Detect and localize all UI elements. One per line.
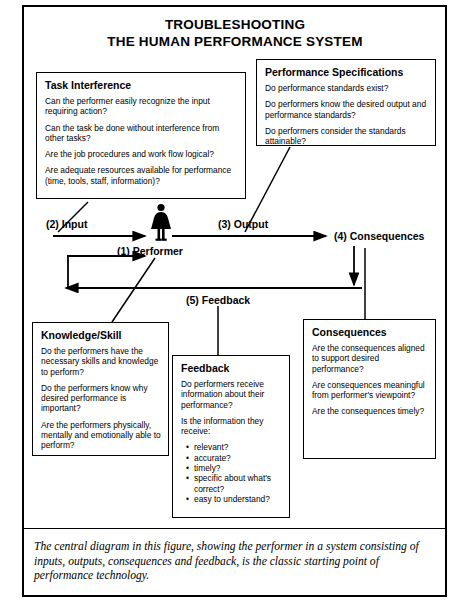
consequences-box: Consequences Are the consequences aligne… [303, 319, 436, 459]
flow-label-input: (2) Input [46, 218, 87, 230]
feedback-question: Do performers receive information about … [181, 379, 282, 410]
flow-label-performer: (1) Performer [117, 245, 183, 257]
performance-specifications-box: Performance Specifications Do performanc… [256, 59, 436, 146]
performance-specifications-question: Do performers consider the standards att… [265, 126, 428, 147]
feedback-bullet: easy to understand? [194, 494, 282, 504]
flow-label-consequences: (4) Consequences [334, 230, 424, 242]
feedback-heading: Feedback [181, 362, 282, 374]
consequences-heading: Consequences [312, 326, 428, 338]
knowledge-skill-question: Are the performers physically, mentally … [41, 420, 161, 451]
feedback-box: Feedback Do performers receive informati… [172, 355, 290, 518]
knowledge-skill-question: Do the performers know why desired perfo… [41, 383, 161, 414]
feedback-question: Is the information they receive: [181, 416, 282, 437]
caption-divider [24, 528, 445, 529]
knowledge-skill-question: Do the performers have the necessary ski… [41, 346, 161, 377]
task-interference-question: Can the performer easily recognize the i… [45, 96, 238, 117]
figure-page: TROUBLESHOOTING THE HUMAN PERFORMANCE SY… [0, 0, 461, 603]
feedback-bullet: timely? [194, 463, 282, 473]
feedback-bullet: relevant? [194, 442, 282, 452]
consequences-question: Are the consequences timely? [312, 406, 428, 416]
figure-title: TROUBLESHOOTING THE HUMAN PERFORMANCE SY… [40, 16, 430, 50]
figure-caption: The central diagram in this figure, show… [34, 540, 436, 584]
task-interference-question: Are adequate resources available for per… [45, 165, 238, 186]
performance-specifications-heading: Performance Specifications [265, 66, 428, 78]
performer-person-icon [148, 203, 174, 241]
title-line-1: TROUBLESHOOTING [40, 16, 430, 33]
performance-specifications-question: Do performance standards exist? [265, 83, 428, 93]
flow-label-output: (3) Output [218, 218, 268, 230]
knowledge-skill-box: Knowledge/Skill Do the performers have t… [32, 322, 169, 456]
consequences-question: Are the consequences aligned to support … [312, 343, 428, 374]
task-interference-question: Are the job procedures and work flow log… [45, 149, 238, 159]
task-interference-heading: Task Interference [45, 79, 238, 91]
knowledge-skill-heading: Knowledge/Skill [41, 329, 161, 341]
task-interference-box: Task Interference Can the performer easi… [36, 72, 246, 199]
performance-specifications-question: Do performers know the desired output an… [265, 99, 428, 120]
title-line-2: THE HUMAN PERFORMANCE SYSTEM [40, 33, 430, 50]
flow-label-feedback: (5) Feedback [186, 294, 250, 306]
task-interference-question: Can the task be done without interferenc… [45, 123, 238, 144]
feedback-bullet: accurate? [194, 453, 282, 463]
feedback-bullet: specific about what's correct? [194, 473, 282, 494]
feedback-bullet-list: relevant? accurate? timely? specific abo… [181, 442, 282, 504]
consequences-question: Are consequences meaningful from perform… [312, 380, 428, 401]
